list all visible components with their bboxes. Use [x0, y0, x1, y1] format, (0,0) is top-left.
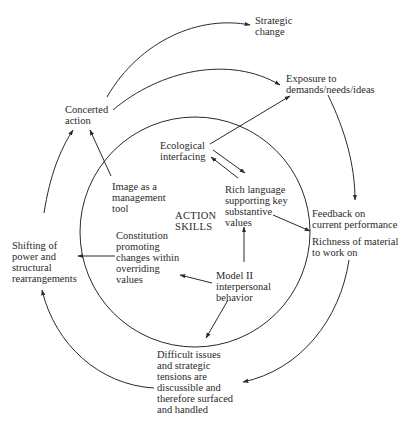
node-strategic-change: Strategic change: [255, 15, 292, 37]
node-constitution: Constitution promoting changes within ov…: [116, 230, 179, 285]
node-difficult-issues: Difficult issues and strategic tensions …: [157, 349, 233, 415]
node-ecological-interfacing: Ecological interfacing: [160, 140, 205, 162]
edge-model-to-constitution: [180, 275, 212, 283]
edge-exposure-to-feedback: [328, 95, 355, 200]
edge-concerted-to-strategic: [107, 23, 250, 97]
edge-difficult-to-shifting: [42, 290, 154, 388]
edge-model-to-difficult: [206, 300, 228, 338]
node-richness: Richness of material to work on: [312, 236, 398, 258]
node-exposure: Exposure to demands/needs/ideas: [286, 73, 375, 95]
edge-shifting-to-concerted: [44, 130, 73, 213]
node-feedback: Feedback on current performance: [312, 208, 397, 230]
center-label-action-skills: ACTION SKILLS: [175, 210, 216, 232]
node-rich-language: Rich language supporting key substantive…: [225, 184, 288, 228]
node-concerted-action: Concerted action: [65, 104, 108, 126]
node-image-tool: Image as a management tool: [112, 181, 166, 214]
edge-ecological-to-rich: [213, 150, 245, 173]
node-shifting-power: Shifting of power and structural rearran…: [12, 240, 77, 284]
edge-rich-to-ecological: [211, 157, 238, 178]
edge-image-to-concerted: [90, 130, 111, 176]
edge-concerted-to-exposure: [113, 69, 280, 110]
node-model-ii: Model II interpersonal behavior: [216, 270, 271, 303]
